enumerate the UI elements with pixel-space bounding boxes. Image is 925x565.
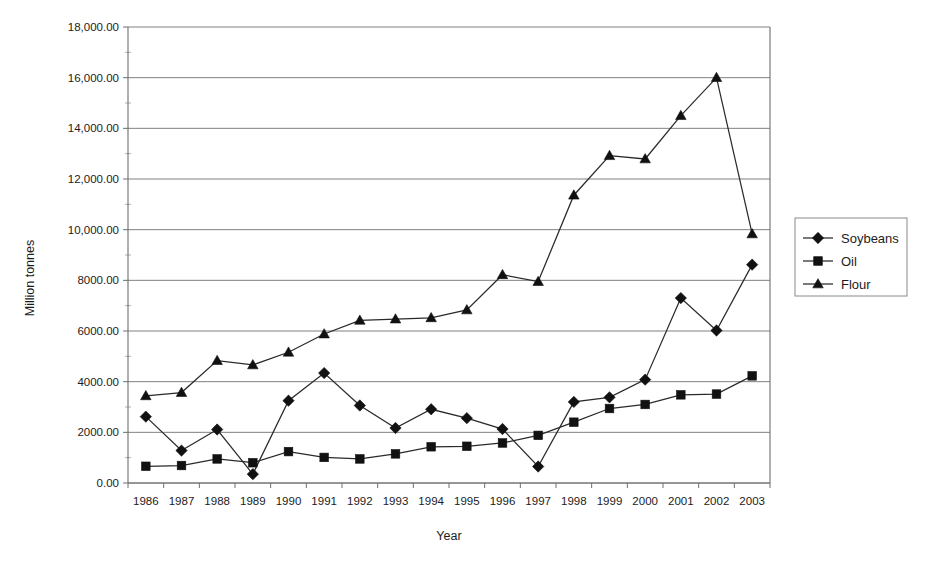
marker-square [677, 391, 686, 400]
marker-square [463, 442, 472, 451]
x-tick-label: 1990 [276, 495, 302, 507]
legend-label: Oil [841, 254, 857, 269]
marker-square [284, 447, 293, 456]
series-line [146, 376, 752, 466]
line-chart: 0.002000.004000.006000.008000.0010,000.0… [0, 0, 925, 565]
y-tick-label: 0.00 [97, 477, 119, 489]
marker-square [605, 404, 614, 413]
marker-diamond [746, 259, 757, 270]
y-tick-label: 14,000.00 [68, 122, 119, 134]
x-tick-label: 2002 [704, 495, 730, 507]
marker-square [356, 455, 365, 464]
marker-diamond [568, 396, 579, 407]
gridlines-group [128, 27, 770, 483]
x-tick-label: 2000 [632, 495, 658, 507]
marker-diamond [283, 395, 294, 406]
marker-square [748, 372, 757, 381]
y-tick-label: 6000.00 [77, 325, 119, 337]
marker-triangle [283, 347, 293, 356]
marker-triangle [212, 355, 222, 364]
marker-square [177, 461, 186, 470]
marker-diamond [461, 412, 472, 423]
y-tick-label: 16,000.00 [68, 72, 119, 84]
marker-diamond [639, 374, 650, 385]
y-tick-labels-group: 0.002000.004000.006000.008000.0010,000.0… [68, 21, 119, 489]
x-tick-label: 1988 [204, 495, 230, 507]
x-tick-label: 2003 [739, 495, 765, 507]
axes-lines-group [123, 27, 770, 483]
marker-square [814, 257, 823, 266]
marker-triangle [497, 269, 507, 278]
data-series-group [140, 72, 758, 480]
chart-canvas: 0.002000.004000.006000.008000.0010,000.0… [0, 0, 925, 565]
x-tick-label: 1994 [418, 495, 444, 507]
y-tick-label: 2000.00 [77, 426, 119, 438]
y-tick-label: 4000.00 [77, 376, 119, 388]
marker-square [534, 431, 543, 440]
marker-square [142, 462, 151, 471]
x-axis-title: Year [436, 529, 461, 543]
legend-item-soybeans[interactable]: Soybeans [803, 231, 899, 246]
marker-triangle [604, 150, 614, 159]
series-line [146, 265, 752, 475]
legend-label: Soybeans [841, 231, 899, 246]
y-axis-title: Million tonnes [23, 240, 37, 316]
marker-square [570, 418, 579, 427]
y-tick-label: 8000.00 [77, 274, 119, 286]
x-tick-label: 1999 [597, 495, 623, 507]
marker-square [249, 458, 258, 467]
marker-square [712, 390, 721, 399]
legend-label: Flour [841, 277, 871, 292]
chart-legend: SoybeansOilFlour [795, 218, 907, 296]
marker-square [427, 442, 436, 451]
x-tick-marks-group [128, 483, 770, 488]
marker-square [320, 453, 329, 462]
series-line [146, 78, 752, 396]
marker-diamond [425, 404, 436, 415]
x-tick-label: 1992 [347, 495, 373, 507]
y-tick-label: 18,000.00 [68, 21, 119, 33]
y-tick-label: 10,000.00 [68, 224, 119, 236]
series-oil [142, 372, 757, 471]
marker-square [641, 400, 650, 409]
y-tick-label: 12,000.00 [68, 173, 119, 185]
x-tick-label: 1987 [169, 495, 195, 507]
x-tick-label: 1989 [240, 495, 266, 507]
marker-triangle [711, 72, 721, 81]
x-tick-label: 1997 [525, 495, 551, 507]
x-tick-label: 1996 [490, 495, 516, 507]
x-tick-labels-group: 1986198719881989199019911992199319941995… [133, 495, 765, 507]
marker-diamond [604, 392, 615, 403]
series-flour [141, 72, 758, 399]
marker-square [213, 455, 222, 464]
x-tick-label: 1998 [561, 495, 587, 507]
x-tick-label: 1986 [133, 495, 159, 507]
x-tick-label: 2001 [668, 495, 694, 507]
x-tick-label: 1995 [454, 495, 480, 507]
x-tick-label: 1993 [383, 495, 409, 507]
marker-square [391, 450, 400, 459]
marker-square [498, 439, 507, 448]
x-tick-label: 1991 [311, 495, 337, 507]
